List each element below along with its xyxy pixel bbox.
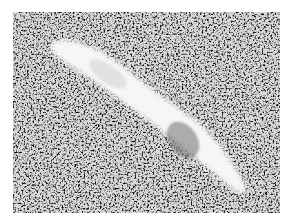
tissue-texture <box>13 12 280 213</box>
micrograph-image <box>13 12 280 213</box>
